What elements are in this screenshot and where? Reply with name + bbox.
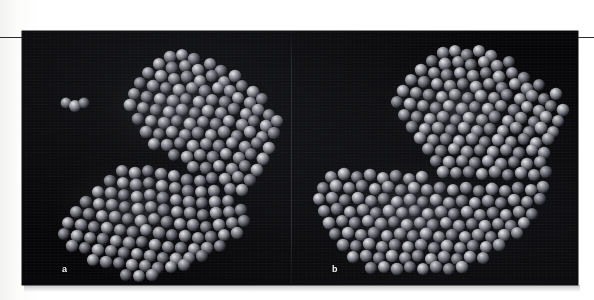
figure-page: a bbox=[0, 0, 594, 300]
right-margin-rule bbox=[578, 37, 594, 38]
panel-b: b bbox=[291, 31, 578, 285]
detached-sphere-cluster-a bbox=[61, 97, 90, 112]
plate-drop-shadow bbox=[24, 285, 580, 292]
left-margin-rule bbox=[0, 37, 22, 38]
panel-label-a: a bbox=[62, 265, 67, 274]
molecular-model-a bbox=[22, 31, 291, 285]
figure-image-plate: a bbox=[22, 31, 578, 285]
panel-a: a bbox=[22, 31, 291, 285]
panel-label-b: b bbox=[332, 265, 338, 274]
molecular-model-b bbox=[291, 31, 578, 285]
